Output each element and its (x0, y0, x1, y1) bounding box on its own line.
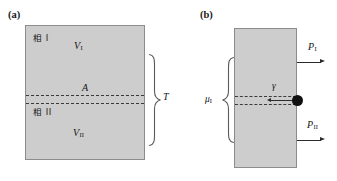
panel-b-surface-tension-arrowhead (267, 98, 271, 102)
panel-a-interface-area-label: A (82, 83, 88, 93)
panel-b-pressure-top-arrow-line (297, 62, 321, 63)
panel-b-pressure-bottom-arrow-line (297, 140, 321, 141)
panel-a-temperature-brace (148, 53, 164, 147)
panel-a-volume-top-label: VI (74, 41, 83, 52)
panel-a-interface-dashline-lower (26, 103, 144, 104)
panel-b-interface-dashline-upper (235, 96, 296, 97)
panel-b-chemical-potential-brace (219, 56, 235, 144)
panel-b-pressure-top-label: PI (308, 42, 317, 53)
panel-b-pressure-bottom-arrowhead (320, 137, 325, 141)
panel-a-volume-top-subscript: I (80, 44, 83, 51)
panel-a-temperature-label: T (163, 92, 169, 102)
panel-b-block (234, 28, 297, 168)
panel-a-phase-bottom-label: 相 II (33, 108, 52, 117)
panel-b-interface-point-dot (292, 95, 303, 106)
panel-b-pressure-bottom-label: PII (307, 120, 318, 131)
panel-b-caption: (b) (200, 9, 213, 20)
panel-a-phase-top-label: 相 I (33, 34, 49, 43)
figure-container: (a) 相 I VI A 相 II VII T (b) (0, 0, 337, 181)
panel-b-pressure-top-arrowhead (320, 59, 325, 63)
panel-b-pressure-bottom-subscript: II (313, 123, 318, 130)
panel-a-volume-bottom-subscript: II (79, 131, 84, 138)
panel-b-chemical-potential-label: μI (205, 95, 212, 105)
panel-b-interface-dashline-lower (235, 104, 296, 105)
panel-b-chemical-potential-subscript: I (210, 97, 212, 104)
panel-a-volume-bottom-label: VII (73, 128, 84, 139)
panel-b-surface-tension-label: γ (272, 82, 276, 92)
panel-a-caption: (a) (8, 9, 20, 20)
panel-b-pressure-top-subscript: I (314, 45, 317, 52)
panel-a-interface-dashline-upper (26, 95, 144, 96)
